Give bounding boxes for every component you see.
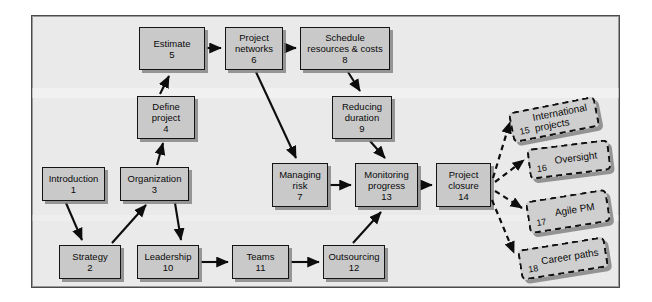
node-label: Managing [279, 169, 321, 180]
node-label: duration [345, 112, 379, 123]
node-number: 6 [251, 54, 256, 65]
node-label: Monitoring [364, 169, 408, 180]
node-number: 2 [87, 262, 92, 273]
dashed-node-label-line: Career paths [540, 246, 599, 266]
node-n3[interactable]: Organization3 [120, 167, 189, 201]
node-label: closure [448, 180, 479, 191]
node-n4[interactable]: Defineproject4 [137, 96, 195, 139]
node-number: 13 [381, 191, 392, 202]
node-label: Schedule [325, 32, 365, 43]
dashed-node-label-line: Oversight [554, 150, 598, 166]
node-label: risk [293, 180, 308, 191]
node-label: Estimate [154, 38, 191, 49]
node-number: 9 [359, 123, 364, 134]
node-label: resources & costs [307, 43, 383, 54]
node-label: Outsourcing [328, 251, 379, 262]
node-number: 3 [152, 184, 157, 195]
node-n13[interactable]: Monitoringprogress13 [355, 163, 418, 207]
node-number: 1 [71, 184, 76, 195]
node-label: Organization [128, 173, 182, 184]
node-label: Introduction [49, 173, 99, 184]
node-n10[interactable]: Leadership10 [137, 245, 199, 279]
node-label: Strategy [72, 251, 107, 262]
node-n5[interactable]: Estimate5 [139, 27, 205, 70]
node-n2[interactable]: Strategy2 [59, 245, 121, 279]
node-number: 10 [163, 262, 174, 273]
node-label: Project [239, 32, 269, 43]
node-number: 4 [163, 123, 168, 134]
node-label: networks [235, 43, 273, 54]
node-number: 11 [256, 262, 266, 273]
node-number: 5 [169, 49, 174, 60]
node-number: 8 [342, 54, 347, 65]
node-label: progress [368, 180, 405, 191]
node-n6[interactable]: Projectnetworks6 [225, 27, 283, 70]
dashed-node-number: 16 [536, 163, 547, 174]
dashed-node-number: 15 [519, 125, 531, 137]
diagram-canvas: Introduction1Strategy2Organization3Defin… [0, 0, 652, 302]
dashed-node-label: Oversight [540, 150, 598, 170]
node-number: 7 [297, 191, 302, 202]
node-n14[interactable]: Projectclosure14 [436, 163, 491, 207]
node-label: Leadership [144, 251, 191, 262]
node-n7[interactable]: Managingrisk7 [272, 163, 328, 207]
node-label: Define [152, 101, 179, 112]
dashed-node-number: 18 [528, 263, 539, 274]
node-number: 14 [458, 191, 469, 202]
node-n8[interactable]: Scheduleresources & costs8 [300, 27, 390, 70]
node-n11[interactable]: Teams11 [232, 245, 289, 279]
node-n1[interactable]: Introduction1 [42, 167, 105, 201]
node-label: project [152, 112, 181, 123]
dashed-node-label-line: Agile PM [554, 201, 595, 218]
node-number: 12 [349, 262, 360, 273]
node-n12[interactable]: Outsourcing12 [323, 245, 385, 279]
dashed-node-label: Agile PM [540, 201, 595, 222]
node-label: Project [449, 169, 479, 180]
node-label: Teams [247, 251, 275, 262]
node-label: Reducing [342, 101, 382, 112]
node-n9[interactable]: Reducingduration9 [332, 96, 392, 139]
dashed-node-number: 17 [536, 217, 547, 228]
